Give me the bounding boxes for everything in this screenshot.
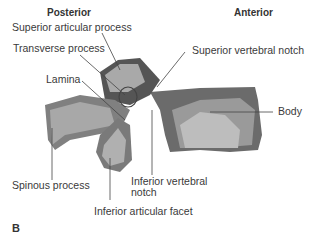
- vertebra-illustration: [0, 0, 315, 236]
- label-transverse-process: Transverse process: [13, 43, 105, 54]
- label-superior-vertebral-notch: Superior vertebral notch: [192, 45, 304, 56]
- label-lamina: Lamina: [46, 74, 80, 85]
- label-inferior-articular-facet: Inferior articular facet: [94, 206, 193, 217]
- label-body: Body: [278, 106, 302, 117]
- label-spinous-process: Spinous process: [12, 180, 90, 191]
- label-inferior-vertebral-notch-line2: notch: [131, 187, 207, 198]
- panel-letter: B: [12, 222, 20, 234]
- anterior-label: Anterior: [234, 7, 273, 18]
- label-superior-articular-process: Superior articular process: [12, 22, 132, 33]
- posterior-label: Posterior: [47, 7, 91, 18]
- label-inferior-vertebral-notch: Inferior vertebral notch: [131, 176, 207, 198]
